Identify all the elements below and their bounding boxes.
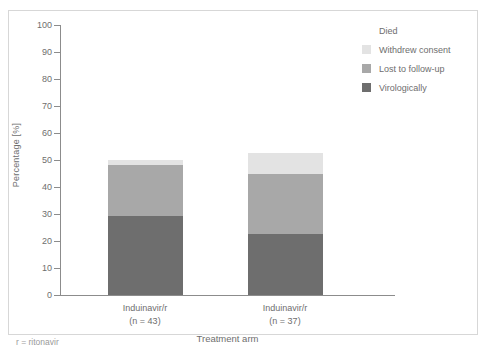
y-axis-line <box>60 25 61 296</box>
y-tick-label-80: 80 <box>14 75 52 84</box>
figure-container: 100 90 80 70 60 50 40 30 20 10 0 Percent… <box>0 0 488 360</box>
y-tick-label-20: 20 <box>14 237 52 246</box>
y-tick-label-0: 0 <box>14 291 52 300</box>
y-tick-20 <box>54 241 60 242</box>
y-tick-80 <box>54 79 60 80</box>
x-category-label-2: Induinavir/r (n = 37) <box>215 302 355 328</box>
y-tick-label-10: 10 <box>14 264 52 273</box>
legend-item-lost-to-follow-up[interactable]: Lost to follow-up <box>362 60 480 77</box>
bar-1-segment-died <box>108 155 183 160</box>
bar-2-segment-virologically <box>248 234 323 295</box>
y-tick-label-100: 100 <box>14 21 52 30</box>
legend-label-lost-to-follow-up: Lost to follow-up <box>379 64 445 74</box>
legend-swatch-virologically-icon <box>362 83 371 92</box>
bar-2-segment-withdrew-consent <box>248 153 323 174</box>
x-category-count-2: (n = 37) <box>215 315 355 328</box>
legend-item-died[interactable]: Died <box>362 22 480 39</box>
bar-1-segment-virologically <box>108 216 183 295</box>
y-tick-50 <box>54 160 60 161</box>
y-tick-100 <box>54 25 60 26</box>
x-category-name-2: Induinavir/r <box>215 302 355 315</box>
y-axis-title: Percentage [%] <box>11 105 21 205</box>
y-tick-70 <box>54 106 60 107</box>
y-tick-30 <box>54 214 60 215</box>
y-tick-label-90: 90 <box>14 48 52 57</box>
x-category-count-1: (n = 43) <box>75 315 215 328</box>
x-category-name-1: Induinavir/r <box>75 302 215 315</box>
x-category-label-1: Induinavir/r (n = 43) <box>75 302 215 328</box>
legend-item-withdrew-consent[interactable]: Withdrew consent <box>362 41 480 58</box>
y-tick-90 <box>54 52 60 53</box>
bar-2-segment-lost-to-follow-up <box>248 174 323 234</box>
legend-swatch-died-icon <box>362 26 371 35</box>
bar-group-2[interactable] <box>248 25 323 295</box>
legend: Died Withdrew consent Lost to follow-up … <box>362 22 480 98</box>
legend-swatch-withdrew-consent-icon <box>362 45 371 54</box>
y-tick-label-30: 30 <box>14 210 52 219</box>
figure-footnote: r = ritonavir <box>16 337 59 347</box>
legend-label-virologically: Virologically <box>379 83 427 93</box>
bar-2-segment-died <box>248 145 323 153</box>
x-axis-line <box>60 295 395 296</box>
y-tick-10 <box>54 268 60 269</box>
bar-1-segment-withdrew-consent <box>108 160 183 165</box>
bar-group-1[interactable] <box>108 25 183 295</box>
legend-label-withdrew-consent: Withdrew consent <box>379 45 451 55</box>
legend-swatch-lost-to-follow-up-icon <box>362 64 371 73</box>
legend-item-virologically[interactable]: Virologically <box>362 79 480 96</box>
y-tick-40 <box>54 187 60 188</box>
x-axis-title: Treatment arm <box>60 333 395 344</box>
legend-label-died: Died <box>379 26 398 36</box>
y-tick-0 <box>54 295 60 296</box>
bar-1-segment-lost-to-follow-up <box>108 165 183 216</box>
y-tick-60 <box>54 133 60 134</box>
